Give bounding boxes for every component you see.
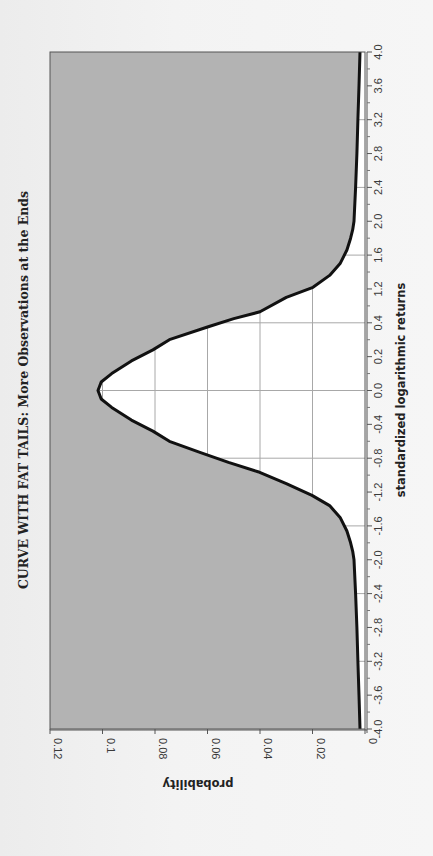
x-tick-label: -1.2 (372, 483, 384, 502)
x-tick-label: -0.8 (372, 449, 384, 468)
x-tick-label: -1.6 (372, 516, 384, 535)
x-tick-label: 2.8 (372, 146, 384, 161)
y-tick-label: 0.04 (262, 738, 274, 759)
x-tick-label: 1.6 (372, 247, 384, 262)
x-tick-label: -3.2 (372, 652, 384, 671)
x-tick-label: -2.8 (372, 618, 384, 637)
x-tick-label: 4.0 (372, 44, 384, 59)
y-tick-label: 0.12 (52, 738, 64, 759)
y-tick-label: 0 (367, 738, 379, 744)
x-tick-label: -0.4 (372, 415, 384, 434)
y-tick-label: 0.02 (315, 738, 327, 759)
x-axis-ticks: -4.0-3.6-3.2-2.8-2.4-2.0-1.6-1.2-0.8-0.4… (367, 44, 384, 738)
x-tick-label: 0.2 (372, 349, 384, 364)
y-tick-label: 0.08 (157, 738, 169, 759)
x-tick-label: 3.6 (372, 78, 384, 93)
x-axis-title: standardized logarithmic returns (394, 283, 408, 498)
x-tick-label: 0.0 (372, 383, 384, 398)
chart-canvas: -4.0-3.6-3.2-2.8-2.4-2.0-1.6-1.2-0.8-0.4… (0, 0, 433, 856)
y-tick-label: 0.1 (105, 738, 117, 753)
y-tick-label: 0.06 (210, 738, 222, 759)
y-axis-ticks: 00.020.040.060.080.10.12 (50, 729, 379, 759)
x-tick-label: -2.0 (372, 550, 384, 569)
x-tick-label: 2.4 (372, 180, 384, 195)
x-tick-label: -4.0 (372, 720, 384, 739)
x-tick-label: -2.4 (372, 584, 384, 603)
x-tick-label: 1.2 (372, 281, 384, 296)
x-tick-label: 0.4 (372, 315, 384, 330)
y-axis-title: probability (162, 777, 233, 791)
x-tick-label: -3.6 (372, 686, 384, 705)
fat-tails-chart: -4.0-3.6-3.2-2.8-2.4-2.0-1.6-1.2-0.8-0.4… (0, 0, 433, 856)
x-tick-label: 2.0 (372, 214, 384, 229)
x-tick-label: 3.2 (372, 112, 384, 127)
chart-title: CURVE WITH FAT TAILS: More Observations … (16, 191, 31, 589)
